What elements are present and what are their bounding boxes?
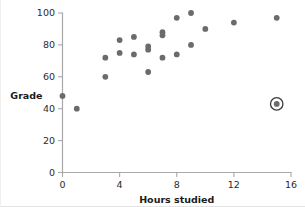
data-point[interactable]: [160, 32, 166, 38]
data-point[interactable]: [160, 55, 166, 61]
y-tick-label-100: 100: [37, 7, 55, 18]
data-point[interactable]: [117, 37, 123, 43]
data-point[interactable]: [202, 26, 208, 32]
x-axis: 0481216: [59, 173, 297, 191]
data-point[interactable]: [174, 52, 180, 58]
axis-spines: [63, 13, 292, 173]
x-tick-label-4: 4: [117, 179, 123, 190]
y-tick-label-20: 20: [43, 135, 55, 146]
y-tick-label-80: 80: [43, 39, 55, 50]
data-point[interactable]: [74, 106, 80, 112]
data-point[interactable]: [231, 20, 237, 26]
x-axis-title: Hours studied: [139, 194, 214, 205]
data-point[interactable]: [145, 69, 151, 75]
plot-canvas: 0204060801000481216GradeHours studied: [1, 0, 305, 207]
data-point[interactable]: [174, 15, 180, 21]
data-point[interactable]: [131, 52, 137, 58]
y-axis-title: Grade: [10, 90, 42, 101]
data-point[interactable]: [274, 15, 280, 21]
x-tick-label-8: 8: [174, 179, 180, 190]
data-point[interactable]: [274, 101, 280, 107]
data-point[interactable]: [117, 50, 123, 56]
data-point[interactable]: [188, 10, 194, 16]
x-tick-label-12: 12: [228, 179, 240, 190]
y-tick-label-40: 40: [43, 103, 55, 114]
data-point[interactable]: [102, 74, 108, 80]
data-point[interactable]: [102, 55, 108, 61]
x-tick-label-0: 0: [59, 179, 65, 190]
x-tick-label-16: 16: [285, 179, 297, 190]
data-point[interactable]: [145, 47, 151, 53]
data-point[interactable]: [188, 42, 194, 48]
y-tick-label-60: 60: [43, 71, 55, 82]
scatter-plot-figure: 0204060801000481216GradeHours studied: [0, 0, 305, 207]
data-points: [60, 10, 280, 112]
data-point[interactable]: [131, 34, 137, 40]
data-point[interactable]: [60, 93, 66, 99]
y-tick-label-0: 0: [49, 167, 55, 178]
